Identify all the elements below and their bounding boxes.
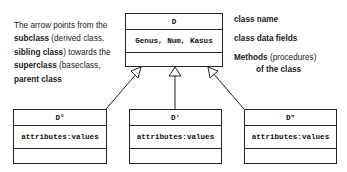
- subclass-fields-row: attributes:values: [130, 126, 221, 149]
- subclass-fields-row: attributes:values: [14, 126, 106, 149]
- explanation-line-4: superclass (baseclass,: [14, 59, 129, 72]
- subclass-box-d-degree: D° attributes:values: [13, 109, 107, 164]
- explanation-line-2: subclass (derived class,: [14, 32, 129, 45]
- subclass-methods-row: [14, 149, 106, 163]
- sibling-class-term: sibling class: [14, 48, 63, 57]
- legend-methods-bold: Methods: [234, 53, 268, 62]
- legend-methods: Methods (procedures) of the class: [234, 52, 316, 76]
- explanation-line-2-rest: (derived class,: [49, 34, 104, 43]
- legend-methods-line2: of the class: [256, 65, 301, 74]
- subclass-box-d-double-prime: D" attributes:values: [244, 109, 337, 164]
- subclass-box-d-prime: D' attributes:values: [129, 109, 222, 164]
- subclass-name-row: D": [245, 110, 336, 126]
- legend-methods-rest: (procedures): [268, 53, 317, 62]
- superclass-term: superclass: [14, 61, 57, 70]
- class-name-row: D: [126, 14, 222, 30]
- explanation-line-3-rest: ) towards the: [63, 48, 110, 57]
- explanation-line-4-rest: (baseclass,: [57, 61, 101, 70]
- explanation-line-5: parent class: [14, 73, 129, 86]
- legend-class-name: class name: [234, 15, 278, 24]
- parent-class-term: parent class: [14, 75, 62, 84]
- superclass-box: D Genus, Num, Kasus: [125, 13, 223, 67]
- subclass-methods-row: [130, 149, 221, 163]
- arrow-head-middle: [169, 67, 181, 76]
- subclass-name-row: D°: [14, 110, 106, 126]
- arrow-head-right: [208, 67, 218, 78]
- subclass-methods-row: [245, 149, 336, 163]
- explanation-line-3: sibling class) towards the: [14, 46, 129, 59]
- explanation-line-1: The arrow points from the: [14, 19, 129, 32]
- subclass-term: subclass: [14, 34, 49, 43]
- subclass-fields-row: attributes:values: [245, 126, 336, 149]
- legend-class-data-fields: class data fields: [234, 34, 297, 43]
- inheritance-explanation: The arrow points from the subclass (deri…: [14, 19, 129, 86]
- subclass-name-row: D': [130, 110, 221, 126]
- arrow-line-right: [212, 72, 244, 109]
- class-fields-row: Genus, Num, Kasus: [126, 30, 222, 53]
- arrow-head-left: [131, 67, 141, 78]
- class-methods-row: [126, 53, 222, 66]
